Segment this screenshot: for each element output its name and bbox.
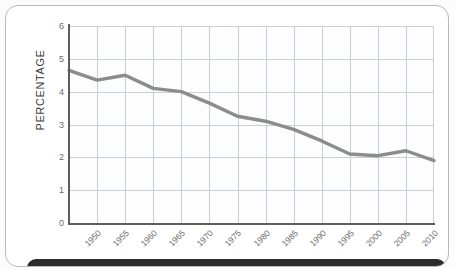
x-tick-label: 1955 bbox=[111, 228, 131, 248]
y-tick-label: 2 bbox=[48, 153, 64, 162]
y-tick-label: 4 bbox=[48, 88, 64, 97]
line-chart: PERCENTAGE 6 5 4 3 2 1 0 bbox=[6, 6, 449, 267]
x-tick-label: 1985 bbox=[279, 228, 299, 248]
y-tick-label: 0 bbox=[48, 219, 64, 228]
y-tick-label: 3 bbox=[48, 121, 64, 130]
screenshot-root: PERCENTAGE 6 5 4 3 2 1 0 bbox=[0, 0, 455, 270]
x-tick-label: 1950 bbox=[83, 228, 103, 248]
x-tick-label: 1965 bbox=[167, 228, 187, 248]
x-tick-label: 2015 bbox=[448, 228, 449, 248]
x-tick-label: 2010 bbox=[419, 228, 439, 248]
series-line-percentage bbox=[69, 26, 434, 223]
y-axis-tick-labels: 6 5 4 3 2 1 0 bbox=[44, 26, 64, 223]
y-axis-line bbox=[68, 24, 70, 225]
x-tick-label: 2000 bbox=[363, 228, 383, 248]
y-tick-label: 1 bbox=[48, 186, 64, 195]
x-tick-label: 1960 bbox=[139, 228, 159, 248]
x-tick-label: 1990 bbox=[307, 228, 327, 248]
x-tick-label: 1970 bbox=[195, 228, 215, 248]
y-tick-label: 5 bbox=[48, 55, 64, 64]
footer-bar bbox=[27, 259, 446, 267]
x-tick-label: 1980 bbox=[251, 228, 271, 248]
chart-card: PERCENTAGE 6 5 4 3 2 1 0 bbox=[5, 5, 449, 267]
x-tick-label: 1995 bbox=[335, 228, 355, 248]
x-axis-line bbox=[68, 223, 435, 225]
x-tick-label: 1975 bbox=[223, 228, 243, 248]
x-tick-label: 2005 bbox=[391, 228, 411, 248]
y-tick-label: 6 bbox=[48, 22, 64, 31]
